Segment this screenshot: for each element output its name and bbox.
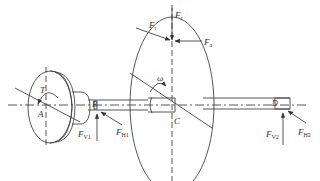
force-fv2-label: FV2 xyxy=(265,129,279,140)
force-fr-label: Fr xyxy=(174,10,183,21)
shaft-force-diagram: T A B ω C D Fr Ft Fa FV1 xyxy=(0,0,320,181)
point-d-label: D xyxy=(271,99,278,108)
point-c-label: C xyxy=(174,116,181,126)
force-fh1-arrow xyxy=(101,112,122,125)
force-fh2-label: FH2 xyxy=(297,127,311,138)
force-fh1-label: FH1 xyxy=(115,127,129,138)
force-fa-label: Fa xyxy=(203,37,213,48)
force-ft-label: Ft xyxy=(148,20,157,31)
omega-label: ω xyxy=(157,73,163,83)
force-fh2-arrow xyxy=(288,111,306,123)
force-fv1-label: FV1 xyxy=(77,129,91,140)
point-a-label: A xyxy=(37,109,44,119)
point-b-label: B xyxy=(92,100,97,109)
